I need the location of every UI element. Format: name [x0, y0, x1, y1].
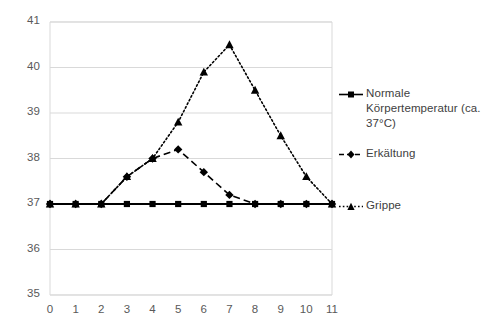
- x-tick-label: 3: [119, 303, 135, 315]
- y-tick-label: 39: [18, 105, 40, 117]
- data-point-square: [201, 201, 207, 207]
- legend-label-normale: Normale Körpertemperatur (ca. 37°C): [366, 86, 483, 132]
- x-tick-label: 0: [42, 303, 58, 315]
- square-marker-icon: [338, 87, 364, 102]
- x-tick-label: 8: [247, 303, 263, 315]
- legend-label-grippe: Grippe: [366, 198, 401, 213]
- data-point-square: [226, 201, 232, 207]
- diamond-marker-icon: [338, 147, 364, 162]
- y-tick-label: 36: [18, 242, 40, 254]
- data-point-square: [175, 201, 181, 207]
- legend-label-erkaeltung: Erkältung: [366, 146, 415, 161]
- legend-item-grippe[interactable]: Grippe: [338, 198, 483, 214]
- temperature-line-chart: 41403938373635 01234567891011 Normale Kö…: [0, 0, 487, 328]
- chart-legend: Normale Körpertemperatur (ca. 37°C) Erkä…: [338, 86, 483, 228]
- legend-item-normale[interactable]: Normale Körpertemperatur (ca. 37°C): [338, 86, 483, 132]
- y-tick-label: 35: [18, 287, 40, 299]
- y-tick-label: 40: [18, 60, 40, 72]
- y-tick-label: 37: [18, 196, 40, 208]
- x-tick-label: 4: [145, 303, 161, 315]
- y-tick-label: 38: [18, 151, 40, 163]
- data-point-square: [149, 201, 155, 207]
- triangle-marker-icon: [338, 199, 364, 214]
- data-point-square: [124, 201, 130, 207]
- x-tick-label: 6: [196, 303, 212, 315]
- x-tick-label: 9: [273, 303, 289, 315]
- x-tick-label: 2: [93, 303, 109, 315]
- x-tick-label: 11: [324, 303, 340, 315]
- x-tick-label: 7: [221, 303, 237, 315]
- y-tick-label: 41: [18, 14, 40, 26]
- x-tick-label: 5: [170, 303, 186, 315]
- x-tick-label: 1: [68, 303, 84, 315]
- x-tick-label: 10: [298, 303, 314, 315]
- legend-item-erkaeltung[interactable]: Erkältung: [338, 146, 483, 162]
